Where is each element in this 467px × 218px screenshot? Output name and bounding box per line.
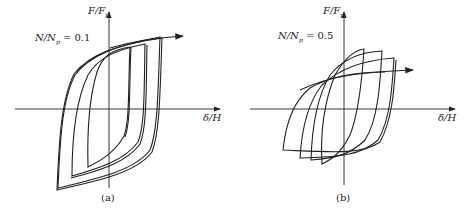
panel-a-loops [57, 36, 183, 190]
panel-b-xlabel: δ/H [438, 112, 456, 123]
panel-b-loops [283, 49, 413, 164]
panel-a-caption: (a) [101, 192, 115, 203]
panel-b-ratio-annotation: N/Np = 0.5 [278, 30, 333, 43]
panel-a-xlabel: δ/H [203, 112, 221, 123]
panel-b-ylabel: F/Fp [323, 5, 344, 18]
panel-a-ratio-annotation: N/Np = 0.1 [35, 32, 90, 45]
panel-b-caption: (b) [336, 192, 350, 203]
panel-a-ylabel: F/Fp [88, 5, 109, 18]
